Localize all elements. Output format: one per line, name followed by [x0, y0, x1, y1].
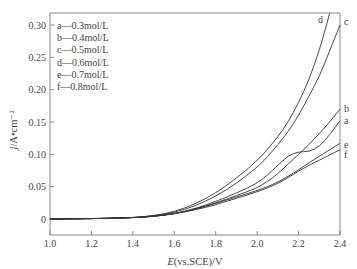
x-tick-label: 2.2	[292, 238, 305, 249]
y-tick-label: 0.15	[29, 117, 47, 128]
y-tick-label: 0.20	[29, 84, 47, 95]
x-axis-title: E(vs.SCE)/V	[166, 256, 223, 268]
curve-b	[50, 109, 340, 219]
legend-item: a—0.3mol/L	[57, 20, 108, 31]
x-tick-label: 1.0	[44, 238, 57, 249]
x-tick-label: 1.2	[85, 238, 98, 249]
x-tick-label: 1.6	[168, 238, 181, 249]
legend-item: b—0.4mol/L	[57, 32, 109, 43]
curve-label-a: a	[344, 115, 349, 126]
x-tick-label: 1.4	[127, 238, 140, 249]
legend-item: c—0.5mol/L	[57, 44, 108, 55]
polarization-chart: 00.050.100.150.200.250.30 1.01.21.41.61.…	[0, 0, 357, 269]
x-tick-label: 2.4	[334, 238, 347, 249]
y-tick-label: 0.25	[29, 52, 47, 63]
curve-label-f: f	[344, 149, 348, 160]
x-tick-label: 1.8	[209, 238, 222, 249]
curve-label-d: d	[318, 14, 323, 25]
legend-item: f—0.8mol/L	[57, 81, 107, 92]
y-tick-label: 0.10	[29, 149, 47, 160]
curve-label-b: b	[344, 103, 349, 114]
x-tick-label: 2.0	[251, 238, 264, 249]
legend-item: e—0.7mol/L	[57, 69, 108, 80]
y-axis-title: j/A•cm⁻²	[8, 110, 19, 151]
curve-e	[50, 143, 340, 219]
x-axis: 1.01.21.41.61.82.02.22.4	[44, 231, 347, 249]
legend-item: d—0.6mol/L	[57, 57, 109, 68]
y-tick-label: 0.05	[29, 181, 47, 192]
y-tick-label: 0	[41, 214, 46, 225]
curve-a	[50, 121, 340, 219]
legend: a—0.3mol/Lb—0.4mol/Lc—0.5mol/Ld—0.6mol/L…	[57, 20, 109, 92]
y-tick-label: 0.30	[29, 20, 47, 31]
curve-label-c: c	[344, 16, 349, 27]
curve-end-labels: dcbaef	[318, 14, 349, 160]
